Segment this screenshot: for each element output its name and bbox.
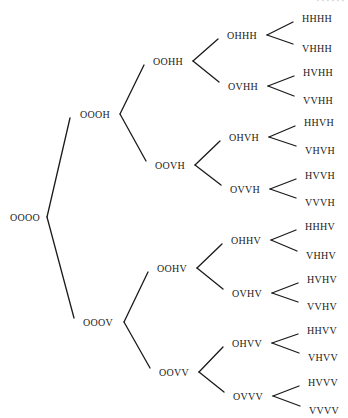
tree-edge (120, 114, 146, 161)
leaf-node-label: HHVH (304, 117, 334, 128)
tree-edge (268, 76, 294, 86)
tree-node-label: OVHV (232, 288, 263, 299)
tree-node-label: OHVH (229, 132, 259, 143)
tree-edge (273, 396, 300, 406)
tree-node-labels: OOOOOOOHOOOVOOHHOOVHOOHVOOVVOHHHOVHHOHVH… (10, 13, 340, 416)
tree-edge (269, 126, 295, 137)
tree-node-label: OOHH (153, 56, 183, 67)
tree-edge (195, 141, 220, 165)
leaf-node-label: VHVV (308, 352, 339, 363)
tree-edge (272, 283, 298, 293)
leaf-node-label: HVHH (303, 67, 333, 78)
tree-edge (47, 118, 70, 217)
tree-node-label: OHVV (232, 338, 263, 349)
tree-edge (272, 334, 298, 343)
root-node-label: OOOO (10, 212, 40, 223)
tree-edge (47, 217, 74, 318)
tree-edge (267, 22, 293, 35)
tree-edge (272, 343, 299, 353)
leaf-node-label: HVVV (308, 377, 339, 388)
tree-node-label: OOOV (83, 317, 114, 328)
leaf-node-label: HHVV (307, 325, 338, 336)
leaf-node-label: VVVH (305, 197, 335, 208)
binary-tree-diagram: OOOOOOOHOOOVOOHHOOVHOOHVOOVVOHHHOVHHOHVH… (0, 0, 348, 418)
tree-edge (270, 189, 296, 198)
tree-edge (199, 372, 224, 392)
leaf-node-label: HVHV (307, 274, 338, 285)
leaf-node-label: VHVH (305, 145, 335, 156)
tree-edge (272, 293, 298, 302)
leaf-node-label: VHHV (306, 250, 337, 261)
tree-edge (193, 61, 219, 82)
tree-edge (124, 272, 148, 322)
tree-node-label: OHHH (227, 30, 257, 41)
leaf-node-label: VVHV (307, 301, 338, 312)
tree-edge (124, 322, 150, 368)
leaf-node-label: VVHH (303, 95, 333, 106)
tree-node-label: OVVH (230, 184, 260, 195)
tree-edge (199, 347, 223, 372)
tree-node-label: OVHH (228, 81, 258, 92)
tree-edge (197, 244, 222, 268)
tree-edge (273, 386, 299, 396)
tree-edge (267, 35, 293, 44)
leaf-node-label: VHHH (302, 43, 332, 54)
tree-edge (193, 39, 218, 61)
tree-node-label: OOOH (80, 109, 110, 120)
leaf-node-label: HHHH (302, 13, 332, 24)
tree-node-label: OOVV (159, 367, 190, 378)
tree-node-label: OHHV (231, 235, 262, 246)
tree-edge (269, 137, 296, 146)
tree-node-label: OOVH (155, 160, 185, 171)
leaf-node-label: HVVH (305, 170, 335, 181)
tree-node-label: OOHV (157, 263, 188, 274)
tree-edge (271, 240, 297, 251)
tree-edge (197, 268, 223, 289)
tree-edge (270, 179, 296, 189)
tree-edge (271, 230, 296, 240)
leaf-node-label: VVVV (309, 405, 340, 416)
tree-node-label: OVVV (233, 391, 264, 402)
leaf-node-label: HHHV (305, 221, 336, 232)
tree-edge (268, 86, 294, 96)
tree-edge (195, 165, 221, 185)
tree-edge (120, 65, 144, 114)
